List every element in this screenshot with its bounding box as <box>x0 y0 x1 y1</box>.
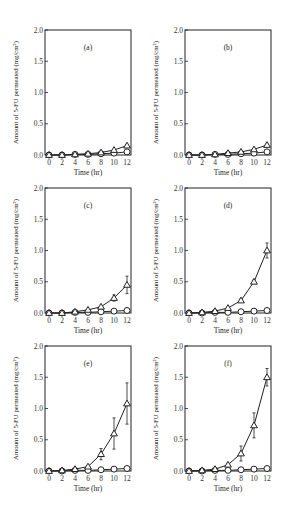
panel-label: (e) <box>84 359 93 368</box>
x-tick-label: 4 <box>213 316 217 325</box>
triangle-marker <box>98 303 105 309</box>
x-tick-label: 6 <box>226 158 230 167</box>
x-tick-label: 4 <box>213 158 217 167</box>
x-tick-label: 12 <box>263 158 271 167</box>
chart-panel-a: 0.00.51.01.52.0024681012Time (hr)Amount … <box>0 12 140 172</box>
x-tick-label: 8 <box>239 474 243 483</box>
x-tick-label: 2 <box>60 474 64 483</box>
circle-marker <box>111 466 117 472</box>
y-tick-label: 1.0 <box>34 246 44 255</box>
x-tick-label: 10 <box>110 158 118 167</box>
chart-svg: 0.00.51.01.52.0024681012Time (hr)Amount … <box>0 328 140 498</box>
x-tick-label: 8 <box>99 158 103 167</box>
triangle-marker <box>238 297 245 303</box>
circle-marker <box>251 308 257 314</box>
x-tick-label: 2 <box>200 474 204 483</box>
x-tick-label: 6 <box>226 316 230 325</box>
y-tick-label: 1.0 <box>34 404 44 413</box>
x-tick-label: 8 <box>239 316 243 325</box>
y-tick-label: 1.5 <box>34 215 44 224</box>
triangle-marker <box>225 305 232 311</box>
y-tick-label: 1.5 <box>174 373 184 382</box>
x-tick-label: 0 <box>47 158 51 167</box>
triangle-marker <box>124 142 131 148</box>
y-tick-label: 2.0 <box>34 342 44 351</box>
y-axis-label: Amount of 5-FU permeated (mg/cm²) <box>152 357 160 460</box>
y-axis-label: Amount of 5-FU permeated (mg/cm²) <box>12 41 20 144</box>
y-tick-label: 0.5 <box>34 435 44 444</box>
y-tick-label: 0.0 <box>34 467 44 476</box>
panel-label: (a) <box>84 43 93 52</box>
circle-marker <box>264 149 270 155</box>
circle-marker <box>225 467 231 473</box>
y-tick-label: 0.5 <box>34 277 44 286</box>
x-tick-label: 12 <box>123 474 131 483</box>
triangle-marker <box>251 278 258 284</box>
y-tick-label: 2.0 <box>174 342 184 351</box>
x-tick-label: 12 <box>123 158 131 167</box>
x-tick-label: 12 <box>123 316 131 325</box>
triangle-marker <box>264 142 271 148</box>
y-tick-label: 0.5 <box>174 119 184 128</box>
circle-marker <box>238 309 244 315</box>
x-axis-label: Time (hr) <box>214 484 243 493</box>
circle-marker <box>264 466 270 472</box>
x-tick-label: 0 <box>187 158 191 167</box>
x-tick-label: 6 <box>86 158 90 167</box>
triangle-marker <box>124 400 131 406</box>
triangle-series-line <box>49 404 127 472</box>
y-tick-label: 0.0 <box>174 467 184 476</box>
y-tick-label: 0.0 <box>174 309 184 318</box>
panel-label: (f) <box>224 359 232 368</box>
x-tick-label: 2 <box>60 158 64 167</box>
triangle-marker <box>238 450 245 456</box>
x-tick-label: 10 <box>110 316 118 325</box>
triangle-marker <box>264 374 271 380</box>
y-tick-label: 0.5 <box>34 119 44 128</box>
chart-svg: 0.00.51.01.52.0024681012Time (hr)Amount … <box>0 12 140 182</box>
y-tick-label: 1.0 <box>174 246 184 255</box>
chart-svg: 0.00.51.01.52.0024681012Time (hr)Amount … <box>0 170 140 340</box>
x-tick-label: 10 <box>250 158 258 167</box>
y-tick-label: 0.5 <box>174 277 184 286</box>
x-tick-label: 0 <box>187 474 191 483</box>
chart-panel-f: 0.00.51.01.52.0024681012Time (hr)Amount … <box>140 328 280 488</box>
x-tick-label: 6 <box>86 316 90 325</box>
y-tick-label: 1.5 <box>34 57 44 66</box>
circle-marker <box>98 467 104 473</box>
panel-label: (b) <box>224 43 233 52</box>
y-tick-label: 1.5 <box>174 215 184 224</box>
chart-panel-c: 0.00.51.01.52.0024681012Time (hr)Amount … <box>0 170 140 330</box>
triangle-marker <box>251 422 258 428</box>
y-tick-label: 1.5 <box>174 57 184 66</box>
x-tick-label: 8 <box>99 316 103 325</box>
x-tick-label: 12 <box>263 316 271 325</box>
y-tick-label: 0.0 <box>34 151 44 160</box>
circle-marker <box>251 466 257 472</box>
x-tick-label: 0 <box>47 474 51 483</box>
circle-marker <box>98 309 104 315</box>
x-tick-label: 0 <box>187 316 191 325</box>
y-tick-label: 2.0 <box>174 184 184 193</box>
x-tick-label: 4 <box>213 474 217 483</box>
circle-marker <box>124 308 130 314</box>
y-tick-label: 1.0 <box>174 404 184 413</box>
triangle-marker <box>111 430 118 436</box>
x-tick-label: 2 <box>200 316 204 325</box>
chart-svg: 0.00.51.01.52.0024681012Time (hr)Amount … <box>140 170 280 340</box>
y-tick-label: 1.0 <box>34 88 44 97</box>
circle-marker <box>238 467 244 473</box>
x-tick-label: 8 <box>99 474 103 483</box>
x-axis-label: Time (hr) <box>74 484 103 493</box>
chart-panel-b: 0.00.51.01.52.0024681012Time (hr)Amount … <box>140 12 280 172</box>
x-tick-label: 2 <box>200 158 204 167</box>
panel-label: (c) <box>84 201 93 210</box>
triangle-marker <box>264 247 271 253</box>
circle-marker <box>264 308 270 314</box>
circle-marker <box>124 149 130 155</box>
x-tick-label: 10 <box>110 474 118 483</box>
x-tick-label: 4 <box>73 158 77 167</box>
triangle-marker <box>98 451 105 457</box>
panel-label: (d) <box>224 201 233 210</box>
y-tick-label: 2.0 <box>174 26 184 35</box>
